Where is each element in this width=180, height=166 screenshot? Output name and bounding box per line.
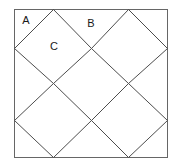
region-label-a: A [22,14,30,26]
region-label-c: C [50,40,58,52]
geometry-diagram-svg: ABC [0,0,180,166]
outer-square-outline [15,10,168,158]
geometry-figure-container: ABC [0,0,180,166]
region-label-b: B [87,17,94,29]
